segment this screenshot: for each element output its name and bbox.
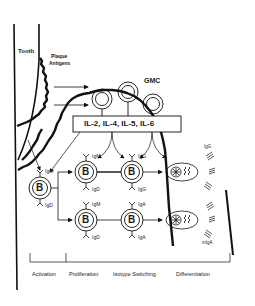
cytokines-label: IL-2, IL-4, IL-5, IL-6 <box>84 119 154 128</box>
plaque-antigens-label-2: Antigens <box>49 60 70 66</box>
gmc-cells <box>92 82 163 116</box>
cytokine-arrows <box>28 132 166 172</box>
plaque-antigens-label-1: Plaque <box>51 53 67 59</box>
ig-switch-upper-top: IgG <box>138 153 146 159</box>
secreted-antibodies <box>204 152 215 238</box>
plasma-cells <box>166 163 198 229</box>
b-letter-switch-lower: B <box>128 214 135 225</box>
stage-proliferation: Proliferation <box>69 271 98 277</box>
antigen-arrows <box>54 87 88 105</box>
tooth-label: Tooth <box>18 48 34 54</box>
diagram-canvas <box>0 0 255 306</box>
b-letter-switch-upper: B <box>128 166 135 177</box>
ig-prolif-upper-top: IgM <box>92 153 100 159</box>
plasma-upper-product-label: IgG <box>204 144 211 149</box>
ig-prolif-lower-bottom: IgD <box>92 234 100 240</box>
b-letter-prolif-upper: B <box>82 166 89 177</box>
ig-activated-top: IgM <box>45 168 53 174</box>
pathway-lines <box>51 172 162 220</box>
stage-bracket <box>30 253 230 262</box>
plasma-lower-product-label: mIgA <box>202 240 213 245</box>
stage-isotype-switching: Isotype Switching <box>113 271 156 277</box>
gmc-label: GMC <box>144 77 160 84</box>
b-letter-prolif-lower: B <box>82 214 89 225</box>
ig-prolif-upper-bottom: IgD <box>92 186 100 192</box>
stage-activation: Activation <box>32 271 56 277</box>
ig-prolif-lower-top: IgM <box>92 201 100 207</box>
ig-switch-lower-top: IgA <box>138 201 146 207</box>
ig-activated-bottom: IgD <box>45 202 53 208</box>
ig-switch-lower-bottom: IgA <box>138 234 146 240</box>
b-letter-activated: B <box>36 182 43 193</box>
tissue-right-edge <box>226 190 233 255</box>
ig-switch-upper-bottom: IgG <box>138 186 146 192</box>
gingival-epithelium <box>17 58 173 246</box>
stage-differentiation: Differentiation <box>176 271 210 277</box>
